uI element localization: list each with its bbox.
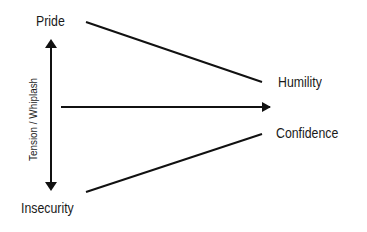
axis-label-tension-whiplash: Tension / Whiplash	[27, 78, 39, 161]
node-pride: Pride	[36, 13, 65, 29]
node-insecurity: Insecurity	[21, 200, 74, 216]
arrow-up-icon	[45, 39, 57, 48]
arrow-down-icon	[45, 182, 57, 191]
node-confidence: Confidence	[276, 125, 338, 141]
insecurity-to-confidence-line	[86, 134, 262, 192]
pride-to-humility-line	[86, 22, 262, 82]
node-humility: Humility	[278, 74, 322, 90]
diagram-canvas	[0, 0, 367, 232]
